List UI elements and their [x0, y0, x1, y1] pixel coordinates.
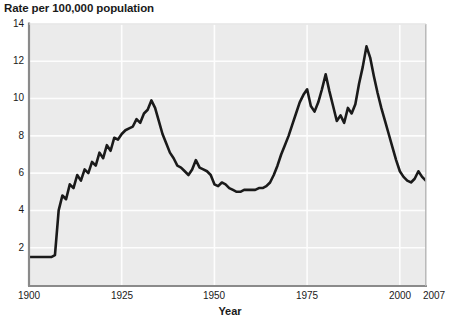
x-tick-label-2007: 2007 [414, 290, 454, 301]
plot-area-wrapper [0, 0, 460, 329]
y-tick-label-6: 6 [0, 167, 24, 178]
plot-background [29, 24, 426, 285]
x-tick-label-1950: 1950 [194, 290, 234, 301]
chart-figure: Rate per 100,000 population [0, 0, 460, 329]
y-tick-label-10: 10 [0, 92, 24, 103]
line-chart-svg [0, 0, 460, 329]
y-tick-label-2: 2 [0, 242, 24, 253]
y-tick-label-4: 4 [0, 204, 24, 215]
x-axis-title: Year [0, 305, 460, 317]
y-tick-label-14: 14 [0, 18, 24, 29]
y-tick-label-8: 8 [0, 130, 24, 141]
x-tick-label-1975: 1975 [287, 290, 327, 301]
x-tick-label-1900: 1900 [9, 290, 49, 301]
y-tick-label-12: 12 [0, 55, 24, 66]
x-tick-label-1925: 1925 [102, 290, 142, 301]
